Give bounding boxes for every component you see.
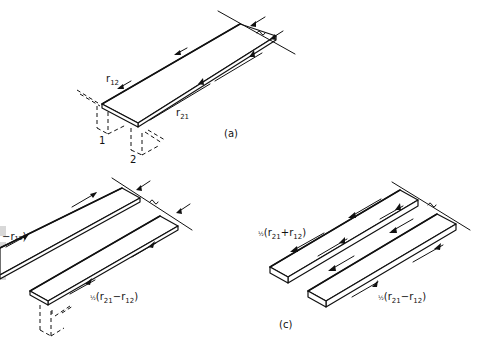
shear-flow-diagram: r12 r21 1 2 (a) [0, 0, 487, 348]
panel-label-c: (c) [279, 319, 292, 330]
shear-arrow-icon [174, 50, 181, 55]
node-label-2: 2 [130, 154, 136, 165]
label-c-diff: ½(r21−r12) [378, 291, 426, 305]
shear-arrow-icon [328, 265, 336, 271]
label-c-sum: ½(r21+r12) [258, 227, 306, 241]
strip-a-top-face [102, 24, 276, 123]
shear-arrow-icon [389, 227, 397, 233]
arrow-icon [176, 208, 182, 214]
panel-c: ½(r21+r12) ½(r21−r12) (c) [258, 182, 470, 330]
panel-b: −r₁₂) ½(r21−r12) [0, 178, 192, 336]
shear-arrow-icon [290, 246, 298, 252]
node-label-1: 1 [99, 135, 105, 146]
label-b-bottom: ½(r21−r12) [90, 291, 138, 305]
shear-arrow-icon [90, 192, 97, 198]
shear-arrow-icon [348, 212, 356, 218]
label-r12: r12 [106, 73, 119, 87]
label-b-left: −r₁₂) [2, 231, 27, 242]
panel-label-a: (a) [224, 128, 238, 139]
arrow-icon [136, 185, 142, 191]
label-r21: r21 [176, 107, 189, 121]
shear-arrow-icon [434, 243, 441, 250]
panel-a: r12 r21 1 2 (a) [77, 11, 295, 165]
shear-arrow-icon [372, 280, 378, 287]
arrow-icon [250, 21, 256, 27]
support-b-dashed [40, 305, 73, 336]
support-2-dashed [131, 128, 165, 155]
